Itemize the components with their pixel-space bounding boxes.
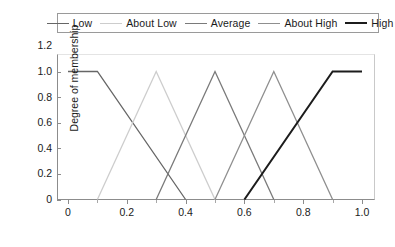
legend-entry[interactable]: Average <box>179 14 253 32</box>
y-tick-label: 1.0 <box>26 66 52 76</box>
legend-swatch-average <box>185 23 207 24</box>
legend-swatch-about-low <box>100 23 122 24</box>
series-line-about-high <box>215 72 333 200</box>
x-tick-label: 0.4 <box>166 207 206 218</box>
x-tick-label: 1.0 <box>342 207 382 218</box>
x-tick-mark-minor <box>333 200 334 203</box>
x-tick-mark-minor <box>156 200 157 203</box>
series-lines <box>57 54 375 200</box>
y-tick-label: 0.2 <box>26 168 52 178</box>
y-tick-label: 0.4 <box>26 143 52 153</box>
y-tick-label: 0.6 <box>26 117 52 127</box>
x-axis-tick-marks <box>57 200 377 206</box>
y-tick-label: 0 <box>26 194 52 204</box>
x-tick-label: 0.6 <box>224 207 264 218</box>
legend-label: About High <box>284 18 339 29</box>
x-tick-mark <box>303 200 304 204</box>
chart-legend: LowAbout LowAverageAbout HighHigh <box>57 13 379 33</box>
x-tick-mark <box>362 200 363 204</box>
x-tick-mark <box>186 200 187 204</box>
legend-label: About Low <box>126 18 179 29</box>
legend-swatch-high <box>345 22 367 24</box>
series-line-about-low <box>97 72 215 200</box>
legend-label: High <box>371 18 395 29</box>
x-tick-mark-minor <box>97 200 98 203</box>
x-tick-mark-minor <box>215 200 216 203</box>
legend-entry[interactable]: About Low <box>94 14 179 32</box>
y-axis-title: Degree of membership <box>68 23 80 133</box>
x-tick-label: 0 <box>48 207 88 218</box>
legend-swatch-about-high <box>258 23 280 24</box>
plot-area: Degree of membership <box>57 54 375 200</box>
legend-label: Average <box>211 18 253 29</box>
y-tick-label: 0.8 <box>26 92 52 102</box>
x-tick-mark <box>244 200 245 204</box>
x-tick-label: 0.8 <box>283 207 323 218</box>
x-tick-label: 0.2 <box>107 207 147 218</box>
legend-entry[interactable]: About High <box>252 14 339 32</box>
legend-swatch-low <box>47 23 69 24</box>
legend-entry[interactable]: High <box>339 14 395 32</box>
x-axis-tick-labels: 00.20.40.60.81.0 <box>57 207 377 221</box>
series-line-average <box>156 72 274 200</box>
x-tick-mark-minor <box>274 200 275 203</box>
y-tick-label: 1.2 <box>26 40 52 50</box>
x-tick-mark <box>127 200 128 204</box>
y-axis-tick-labels: 00.20.40.60.81.01.2 <box>20 54 52 200</box>
x-tick-mark <box>68 200 69 204</box>
